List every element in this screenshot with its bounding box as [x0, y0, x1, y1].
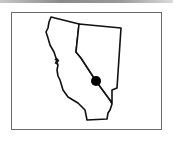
- location-marker-icon[interactable]: [91, 76, 101, 86]
- map-canvas: [0, 0, 173, 142]
